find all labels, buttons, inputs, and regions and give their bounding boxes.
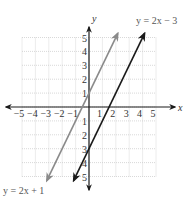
y-tick-label: 3 [82, 60, 87, 71]
coordinate-plane-graph: −5−4−3−2−1123455432112345 x y y = 2x − 3… [0, 0, 187, 202]
x-tick-label: −3 [40, 108, 51, 119]
y-tick-label: 2 [82, 74, 87, 85]
y-tick-label: 4 [82, 46, 87, 57]
y-tick-label: 5 [82, 172, 87, 183]
x-tick-label: −5 [14, 108, 25, 119]
x-tick-label: 3 [124, 108, 129, 119]
x-axis-label: x [177, 102, 183, 113]
x-tick-label: 4 [137, 108, 142, 119]
x-tick-label: −1 [67, 108, 78, 119]
line-label-2x-minus-3: y = 2x − 3 [136, 15, 177, 26]
x-tick-label: 1 [97, 108, 102, 119]
y-tick-label: 2 [82, 130, 87, 141]
x-tick-label: −4 [27, 108, 38, 119]
y-tick-label: 5 [82, 33, 87, 44]
line-label-2x-plus-1: y = 2x + 1 [3, 185, 44, 196]
x-tick-label: −2 [54, 108, 65, 119]
y-tick-label: 1 [82, 116, 87, 127]
x-tick-label: 2 [110, 108, 115, 119]
x-tick-label: 5 [151, 108, 156, 119]
y-axis-label: y [91, 13, 97, 24]
